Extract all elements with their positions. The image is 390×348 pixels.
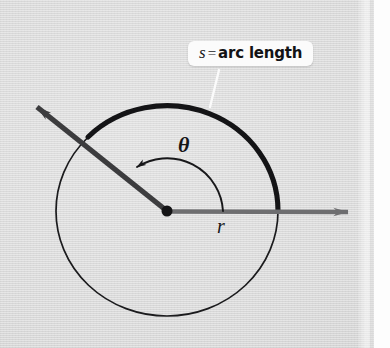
- callout-equals-sign: =: [206, 45, 218, 61]
- callout-text-arc-length: arc length: [218, 44, 302, 62]
- callout-variable-s: s: [199, 43, 206, 62]
- angle-arc-theta: [137, 158, 223, 211]
- bold-arc-s: [88, 106, 278, 211]
- theta-label: θ: [178, 134, 189, 156]
- callout-leader-line: [210, 70, 219, 107]
- center-point: [162, 206, 173, 217]
- initial-side-ray: [167, 212, 348, 213]
- radius-label: r: [217, 216, 225, 236]
- arc-length-callout: s=arc length: [188, 41, 313, 66]
- figure-page: s=arc length θ r: [0, 0, 390, 348]
